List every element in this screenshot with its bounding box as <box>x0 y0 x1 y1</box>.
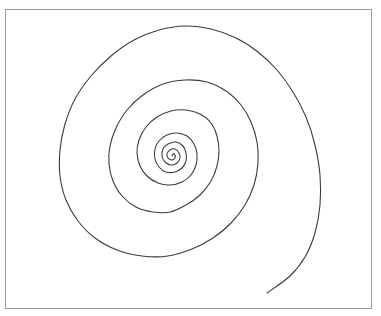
spiral-path <box>59 26 320 293</box>
spiral-drawing <box>0 0 381 316</box>
